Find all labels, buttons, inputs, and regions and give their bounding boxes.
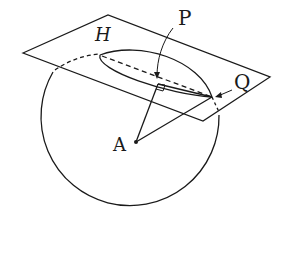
label-P: P: [178, 8, 191, 28]
segment-PQ: [158, 84, 212, 97]
label-A: A: [113, 136, 126, 154]
label-Q: Q: [234, 72, 250, 92]
label-H: H: [95, 26, 111, 44]
diagram-canvas: P H Q A: [0, 0, 293, 271]
arrowhead-Q: [215, 92, 222, 98]
plane: [23, 15, 270, 121]
point-A: [134, 140, 138, 144]
sphere-hidden-arc-right: [212, 97, 219, 112]
segment-AP: [136, 84, 158, 142]
geometry-figure: [0, 0, 293, 271]
